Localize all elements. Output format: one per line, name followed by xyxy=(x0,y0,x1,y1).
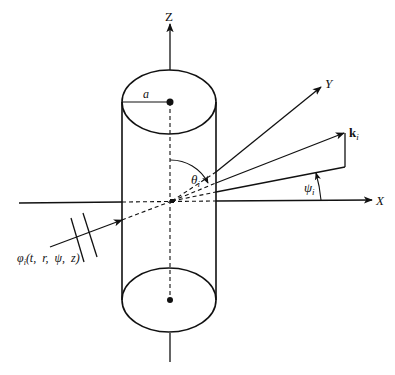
psi-arc xyxy=(316,173,321,200)
y-axis-outer xyxy=(216,87,321,172)
psi-label: ψi xyxy=(304,180,315,197)
k-projection-outer xyxy=(216,167,345,192)
cylinder-bottom-front xyxy=(122,300,216,332)
bottom-center-dot xyxy=(167,297,173,303)
theta-label: θi xyxy=(191,172,200,189)
theta-arc xyxy=(170,160,208,183)
incident-ray-inner xyxy=(122,201,172,220)
x-axis-left xyxy=(19,202,122,203)
wavefront-line-2 xyxy=(83,213,97,257)
incident-wave-label: φi(t, r, ψ, z) xyxy=(17,251,80,267)
z-axis-label: Z xyxy=(165,9,173,24)
origin-point xyxy=(170,199,174,203)
y-axis-label: Y xyxy=(325,76,334,91)
x-axis-label: X xyxy=(375,193,385,208)
k-vector-label: ki xyxy=(349,125,359,142)
top-center-dot xyxy=(167,99,174,106)
radius-label: a xyxy=(143,87,149,101)
cylinder-scattering-diagram: Z X Y a θi ψi ki φi(t, r, ψ, z) xyxy=(0,0,395,375)
k-vector-outer xyxy=(216,133,344,183)
cylinder-bottom-back xyxy=(122,268,216,300)
x-axis-right xyxy=(216,200,372,201)
